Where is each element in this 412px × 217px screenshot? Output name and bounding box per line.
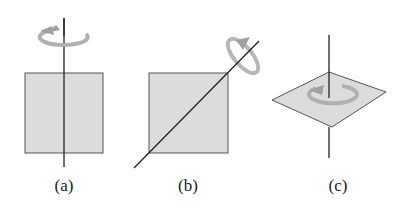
panel-b: [134, 34, 263, 168]
panel-label-b: (b): [178, 176, 198, 196]
panel-a: [25, 18, 103, 167]
panel-c: [272, 35, 386, 158]
panel-label-c: (c): [329, 176, 348, 196]
panel-label-a: (a): [55, 176, 74, 196]
